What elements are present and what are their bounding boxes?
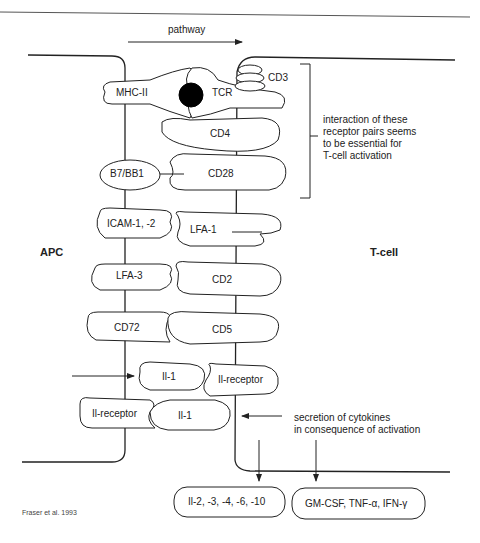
citation: Fraser et al. 1993 — [22, 509, 77, 516]
cd72-label: CD72 — [114, 322, 140, 333]
lfa1-label: LFA-1 — [190, 224, 217, 235]
cd5-label: CD5 — [212, 324, 232, 335]
il-receptor-left-label: Il-receptor — [92, 408, 137, 419]
cd3-label: CD3 — [268, 72, 288, 83]
il-receptor-right-label: Il-receptor — [218, 374, 263, 385]
pathway-label: pathway — [168, 24, 205, 35]
lfa3-label: LFA-3 — [116, 270, 143, 281]
interleukins-box-label: Il-2, -3, -4, -6, -10 — [188, 496, 265, 507]
b7-label: B7/BB1 — [110, 168, 144, 179]
tcr-label: TCR — [212, 87, 233, 98]
il1-bottom-label: Il-1 — [178, 410, 192, 421]
icam-label: ICAM-1, -2 — [107, 218, 155, 229]
mhc-ii-label: MHC-II — [116, 87, 148, 98]
cd4-label: CD4 — [210, 128, 230, 139]
apc-label: APC — [40, 246, 63, 258]
secretion-note: secretion of cytokines in consequence of… — [294, 412, 420, 436]
tcell-label: T-cell — [370, 246, 398, 258]
cd2-label: CD2 — [212, 274, 232, 285]
il1-top-label: Il-1 — [162, 371, 176, 382]
other-cytokines-box-label: GM-CSF, TNF-α, IFN-γ — [305, 498, 407, 509]
interaction-note: interaction of these receptor pairs seem… — [323, 114, 416, 162]
diagram-canvas — [0, 0, 480, 543]
cd28-label: CD28 — [208, 168, 234, 179]
